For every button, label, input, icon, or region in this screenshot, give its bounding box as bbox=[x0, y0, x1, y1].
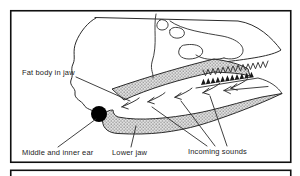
caption-box-edge bbox=[11, 170, 291, 176]
ear-dot bbox=[91, 106, 107, 122]
figure-dolphin-hearing: Fat body in jaw Middle and inner ear Low… bbox=[0, 0, 300, 176]
label-lower-jaw: Lower jaw bbox=[112, 148, 147, 157]
label-incoming-sounds: Incoming sounds bbox=[188, 147, 247, 156]
label-fat-body: Fat body in jaw bbox=[22, 68, 75, 77]
label-middle-inner-ear: Middle and inner ear bbox=[22, 148, 93, 157]
